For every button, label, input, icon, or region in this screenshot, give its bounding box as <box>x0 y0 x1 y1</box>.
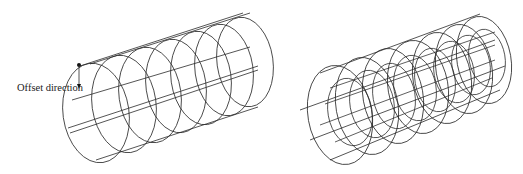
left-cylinder <box>56 13 279 167</box>
offset-direction-label: Offset direction <box>17 82 83 93</box>
right-cylinder-outer <box>300 12 518 170</box>
